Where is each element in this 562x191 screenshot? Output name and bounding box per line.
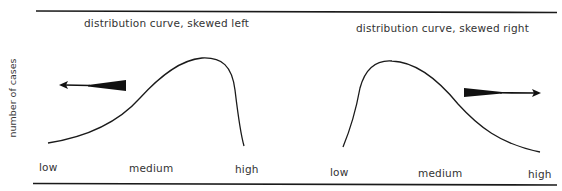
x-label-medium-left: medium	[129, 162, 173, 174]
panel-title-skewed-right: distribution curve, skewed right	[356, 22, 529, 34]
x-label-high-right: high	[528, 168, 552, 180]
right-arrow-icon	[464, 88, 541, 97]
panel-title-skewed-left: distribution curve, skewed left	[84, 17, 249, 29]
skewed-left-curve	[48, 58, 244, 146]
x-label-high-left: high	[235, 163, 259, 175]
skewed-right-curve	[343, 61, 540, 152]
top-rule	[36, 11, 557, 13]
x-label-low-left: low	[39, 161, 58, 173]
y-axis-label: number of cases	[7, 58, 18, 137]
left-arrow-icon	[59, 80, 126, 91]
x-label-low-right: low	[330, 166, 349, 178]
x-label-medium-right: medium	[418, 167, 462, 179]
bottom-rule	[33, 184, 557, 186]
